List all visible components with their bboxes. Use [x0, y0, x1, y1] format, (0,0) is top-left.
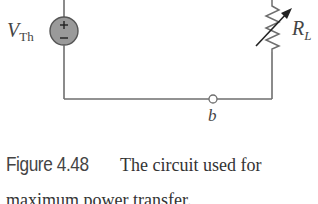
load-label-main: R — [292, 17, 304, 39]
load-label-sub: L — [304, 28, 311, 43]
variable-resistor-icon — [256, 0, 292, 52]
figure-caption: Figure 4.48The circuit used for — [6, 152, 261, 176]
terminal-b-label: b — [208, 106, 217, 126]
figure-number: Figure 4.48 — [6, 152, 85, 176]
caption-text-line1: The circuit used for — [120, 155, 261, 175]
caption-text-line2: maximum power transfer. — [6, 190, 191, 204]
source-label: VTh — [7, 19, 34, 45]
source-label-main: V — [7, 19, 19, 41]
terminal-b-icon — [209, 95, 217, 103]
circuit-diagram — [0, 0, 318, 150]
voltage-source-icon — [50, 17, 78, 45]
load-resistor-label: RL — [292, 17, 311, 44]
source-label-sub: Th — [19, 29, 33, 44]
